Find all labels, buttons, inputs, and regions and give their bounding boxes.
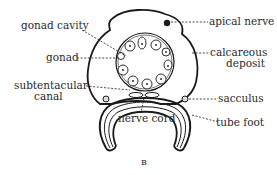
sacculus-left bbox=[103, 96, 109, 102]
label-gonad: gonad bbox=[46, 52, 79, 63]
label-gonad-cavity: gonad cavity bbox=[21, 20, 89, 31]
panel-letter: B bbox=[141, 157, 147, 168]
label-sacculus: sacculus bbox=[218, 93, 264, 104]
label-nerve-cord: nerve cord bbox=[118, 113, 175, 124]
sacculus-right bbox=[182, 96, 188, 102]
apical-nerve-dot bbox=[164, 20, 170, 26]
label-tube-foot: tube foot bbox=[216, 117, 264, 128]
nerve-cord-left bbox=[129, 93, 143, 98]
body-outline bbox=[88, 10, 198, 104]
label-subtentacular-canal-line2: canal bbox=[34, 91, 63, 102]
label-calcareous-deposit-line2: deposit bbox=[226, 58, 265, 69]
nerve-cord-right bbox=[145, 93, 159, 98]
label-apical-nerve: apical nerve bbox=[209, 16, 274, 27]
tube-foot bbox=[100, 98, 191, 150]
